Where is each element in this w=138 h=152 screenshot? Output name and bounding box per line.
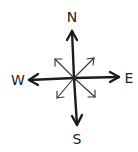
north-label: N: [67, 9, 77, 25]
west-arrow: [29, 74, 74, 85]
east-label: E: [125, 70, 134, 86]
northwest-arrow: [55, 59, 74, 78]
south-arrow: [72, 78, 82, 125]
compass-rose: N E S W: [0, 0, 138, 152]
east-arrow: [74, 72, 119, 82]
southwest-arrow: [57, 78, 74, 98]
south-label: S: [73, 131, 82, 147]
southeast-arrow: [74, 78, 95, 97]
west-label: W: [11, 72, 25, 88]
northeast-arrow: [74, 58, 94, 78]
north-arrow: [67, 31, 77, 78]
